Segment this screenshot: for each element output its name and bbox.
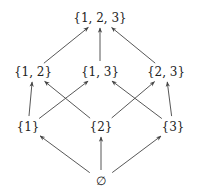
- edge-s2-to-s12: [45, 81, 90, 118]
- node-set-1-2: {1, 2}: [14, 65, 52, 79]
- edge-s12-to-s123: [44, 27, 88, 63]
- node-set-1-2-3: {1, 2, 3}: [73, 11, 126, 25]
- node-set-2: {2}: [90, 120, 113, 134]
- node-set-1-3: {1, 3}: [81, 65, 119, 79]
- node-set-3: {3}: [162, 120, 185, 134]
- node-empty-set: ∅: [96, 174, 106, 188]
- hasse-diagram-edges: [0, 0, 199, 195]
- edge-empty-to-s1: [40, 136, 90, 173]
- edge-empty-to-s3: [112, 136, 161, 173]
- edge-s1-to-s12: [29, 82, 32, 116]
- edge-s1-to-s13: [39, 81, 88, 118]
- edge-s3-to-s23: [167, 82, 171, 116]
- node-set-1: {1}: [17, 120, 40, 134]
- edge-s23-to-s123: [112, 27, 156, 63]
- edge-s3-to-s13: [112, 81, 162, 119]
- node-set-2-3: {2, 3}: [147, 65, 185, 79]
- edge-s2-to-s23: [112, 82, 155, 118]
